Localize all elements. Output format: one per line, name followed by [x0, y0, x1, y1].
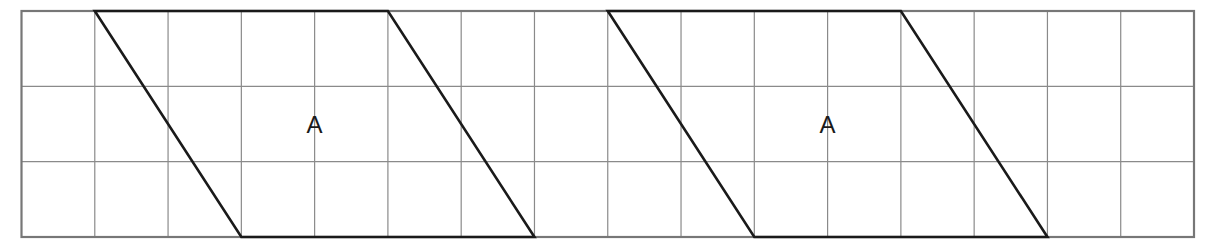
- shape-label: A: [820, 111, 836, 138]
- shape-label: A: [307, 111, 323, 138]
- grid-lines: [22, 11, 1195, 237]
- grid-diagram: AA: [0, 0, 1228, 249]
- shapes: AA: [95, 11, 1048, 237]
